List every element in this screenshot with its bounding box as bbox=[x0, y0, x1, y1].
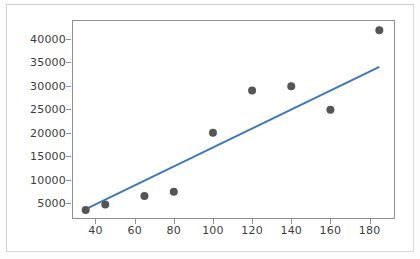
y-tick-label: 35000 bbox=[30, 56, 66, 69]
x-tick-mark bbox=[370, 219, 371, 224]
data-point bbox=[82, 206, 90, 214]
x-tick-label: 140 bbox=[280, 224, 302, 237]
y-tick-mark bbox=[66, 62, 71, 63]
y-tick-mark bbox=[66, 156, 71, 157]
y-tick-label: 5000 bbox=[37, 197, 66, 210]
x-tick-mark bbox=[330, 219, 331, 224]
y-tick-mark bbox=[66, 39, 71, 40]
scatter-points bbox=[82, 26, 384, 214]
y-tick-mark bbox=[66, 109, 71, 110]
data-point bbox=[248, 86, 256, 94]
y-tick-label: 25000 bbox=[30, 103, 66, 116]
plot-area bbox=[72, 20, 395, 219]
data-point bbox=[170, 188, 178, 196]
data-point bbox=[326, 106, 334, 114]
y-tick-label: 20000 bbox=[30, 126, 66, 139]
x-tick-label: 120 bbox=[241, 224, 263, 237]
x-tick-mark bbox=[95, 219, 96, 224]
y-axis: 500010000150002000025000300003500040000 bbox=[0, 0, 66, 259]
x-tick-label: 40 bbox=[88, 224, 102, 237]
regression-line-path bbox=[86, 67, 380, 209]
x-tick-mark bbox=[174, 219, 175, 224]
screenshot-root: 500010000150002000025000300003500040000 … bbox=[0, 0, 420, 259]
x-tick-mark bbox=[213, 219, 214, 224]
y-tick-mark bbox=[66, 180, 71, 181]
x-tick-mark bbox=[291, 219, 292, 224]
data-point bbox=[101, 200, 109, 208]
data-point bbox=[140, 192, 148, 200]
x-tick-label: 100 bbox=[202, 224, 224, 237]
y-tick-label: 30000 bbox=[30, 79, 66, 92]
x-tick-label: 180 bbox=[359, 224, 381, 237]
x-tick-label: 80 bbox=[167, 224, 181, 237]
data-point bbox=[287, 82, 295, 90]
y-tick-label: 15000 bbox=[30, 150, 66, 163]
y-tick-mark bbox=[66, 133, 71, 134]
x-tick-mark bbox=[252, 219, 253, 224]
regression-line bbox=[86, 67, 380, 209]
y-tick-label: 40000 bbox=[30, 32, 66, 45]
x-tick-mark bbox=[135, 219, 136, 224]
y-tick-mark bbox=[66, 203, 71, 204]
x-tick-label: 160 bbox=[320, 224, 342, 237]
data-point bbox=[209, 129, 217, 137]
data-point bbox=[375, 26, 383, 34]
chart-figure: 500010000150002000025000300003500040000 … bbox=[0, 0, 420, 259]
y-tick-mark bbox=[66, 86, 71, 87]
y-tick-label: 10000 bbox=[30, 173, 66, 186]
x-tick-label: 60 bbox=[127, 224, 141, 237]
